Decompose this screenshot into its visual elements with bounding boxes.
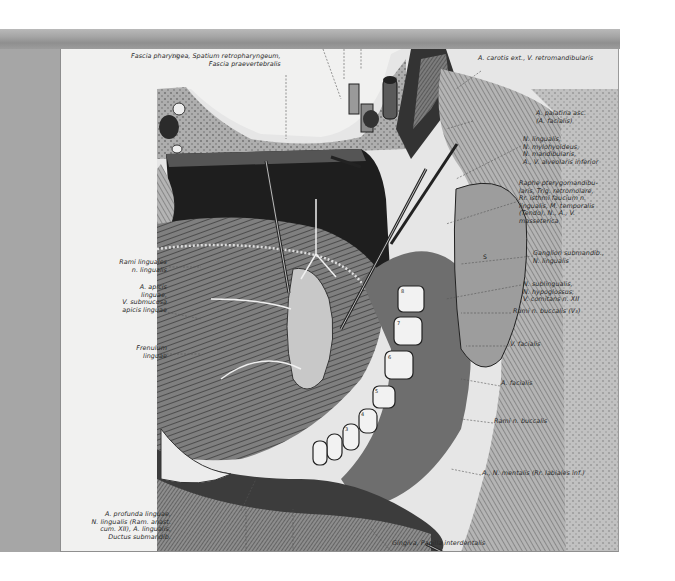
label-n-sublingualis: N. sublingualis, N. hypoglossus, V. comi… [523,281,579,304]
label-a-palatina-asc: A. palatina asc. (A. facialis) [536,110,586,125]
label-a-carotis-ext: A. carotis ext., V. retromandibularis [478,55,593,63]
header-bar [0,29,620,49]
figure-plate: 14 [60,49,619,552]
label-a-apicis-linguae: A. apicis linguae, V. submucosa apicis l… [61,284,167,314]
label-gingiva: Gingiva, Papilla interdentalis [392,540,485,548]
label-raphe-pterygomandibularis: Raphe pterygomandibu- laris, Trig. retro… [519,180,598,226]
label-a-profunda-linguae: A. profunda linguae, N. lingualis (Ram. … [61,511,171,541]
label-a-n-mentalis: A., N. mentalis (Rr. labiales inf.) [482,470,585,478]
side-panel [0,49,60,552]
svg-text:4: 4 [361,411,364,417]
label-frenulum-linguae: Frenulum linguae [61,345,167,360]
label-fascia-pharyngea: Fascia pharyngea, Spatium retropharyngeu… [131,53,281,68]
label-rami-linguales: Rami linguales n. lingualis [61,259,167,274]
svg-text:8: 8 [401,288,404,294]
svg-text:S: S [483,253,487,260]
label-n-lingualis-group: N. lingualis, N. mylohyoideus, N. mandib… [523,136,598,166]
label-rami-n-buccalis-v3: Rami n. buccalis (V₃) [513,308,580,316]
svg-text:6: 6 [388,354,391,360]
svg-text:7: 7 [397,320,400,326]
label-a-facialis: A. facialis [501,380,532,388]
svg-text:5: 5 [375,388,378,394]
svg-text:3: 3 [345,426,348,432]
label-ganglion-submandibulare: Ganglion submandib., N. lingualis [533,250,604,265]
label-rami-n-buccalis: Rami n. buccalis [494,418,547,426]
label-v-facialis: V. facialis [510,341,541,349]
